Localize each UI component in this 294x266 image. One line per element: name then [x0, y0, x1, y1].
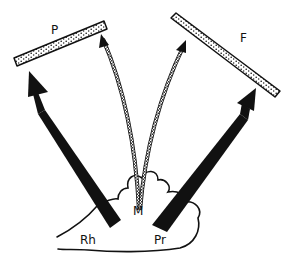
arrow-rh-to-p: [28, 71, 121, 228]
arrow-m-to-f: [140, 40, 186, 210]
arrow-pr-to-f: [152, 88, 256, 232]
bar-p: [14, 21, 107, 66]
diagram-canvas: P F M: [0, 0, 294, 266]
label-p: P: [51, 23, 58, 37]
diagram-svg: P F M: [0, 0, 294, 266]
label-pr: Pr: [154, 233, 166, 247]
bar-f: [171, 13, 280, 97]
arrow-m-to-p: [99, 34, 139, 210]
label-rh: Rh: [80, 233, 96, 247]
label-m: M: [133, 204, 143, 218]
label-f: F: [240, 31, 247, 45]
